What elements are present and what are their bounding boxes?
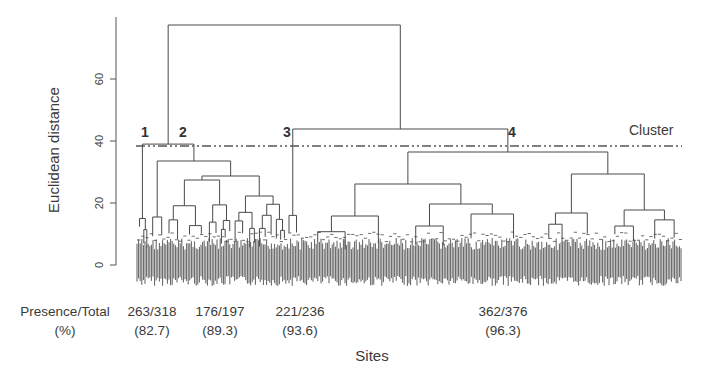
y-tick-label: 60 [93, 73, 105, 85]
cluster-line-label: Cluster [629, 122, 673, 138]
cluster-2-percent: (89.3) [196, 321, 245, 340]
cluster-number-3: 3 [283, 124, 291, 140]
presence-total-label: Presence/Total [20, 302, 109, 321]
cluster-number-4: 4 [508, 124, 516, 140]
cluster-1-ratio: 263/318 [128, 302, 177, 321]
cluster-number-2: 2 [179, 124, 187, 140]
cluster-number-1: 1 [141, 124, 149, 140]
cluster-3-stats: 221/236 (93.6) [276, 302, 325, 340]
y-tick-label: 40 [93, 135, 105, 147]
cluster-4-ratio: 362/376 [479, 302, 528, 321]
cluster-3-percent: (93.6) [276, 321, 325, 340]
cluster-2-ratio: 176/197 [196, 302, 245, 321]
percent-label: (%) [20, 321, 109, 340]
cluster-4-percent: (96.3) [479, 321, 528, 340]
x-axis-label: Sites [355, 347, 388, 364]
presence-total-header: Presence/Total (%) [20, 302, 109, 340]
cluster-1-percent: (82.7) [128, 321, 177, 340]
cluster-4-stats: 362/376 (96.3) [479, 302, 528, 340]
y-tick-label: 0 [93, 262, 105, 268]
y-tick-label: 20 [93, 197, 105, 209]
y-axis-label: Euclidean distance [45, 87, 62, 213]
cluster-1-stats: 263/318 (82.7) [128, 302, 177, 340]
cluster-3-ratio: 221/236 [276, 302, 325, 321]
cluster-2-stats: 176/197 (89.3) [196, 302, 245, 340]
